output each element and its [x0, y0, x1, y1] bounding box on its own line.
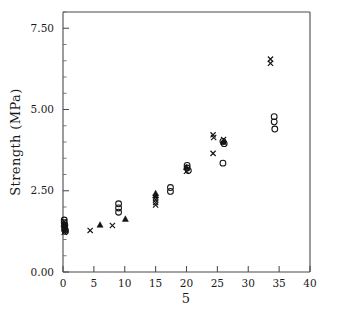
x-tick-label: 10	[118, 277, 131, 289]
x-tick-label: 20	[180, 277, 193, 289]
y-tick-label: 5.00	[31, 103, 54, 115]
x-tick-label: 40	[303, 277, 316, 289]
y-tick-label: 0.00	[31, 266, 54, 278]
y-tick-label: 2.50	[31, 184, 54, 196]
plot-canvas: 0.002.505.007.50 0510152025303540 Streng…	[0, 0, 338, 319]
x-tick-label: 5	[91, 277, 98, 289]
x-tick-label: 35	[272, 277, 285, 289]
x-tick-label: 0	[60, 277, 67, 289]
scatter-plot-figure: 0.002.505.007.50 0510152025303540 Streng…	[0, 0, 338, 319]
y-tick-label: 7.50	[31, 22, 54, 34]
y-axis-title: Strength (MPa)	[8, 88, 23, 195]
x-axis-title: 5	[182, 291, 191, 306]
x-tick-label: 30	[242, 277, 255, 289]
x-tick-label: 25	[211, 277, 224, 289]
x-tick-label: 15	[149, 277, 162, 289]
